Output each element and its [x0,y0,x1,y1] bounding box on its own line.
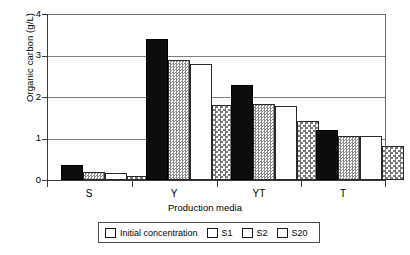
bar-S-initial-concentration [61,165,83,180]
y-tick-label-3: 3 [27,50,41,60]
chart-legend: Initial concentration S1 S2 S20 [98,222,320,243]
bar-Y-s2 [190,64,212,180]
y-tick-label-2: 2 [27,92,41,102]
legend-swatch-s2 [242,228,253,238]
bar-S-s2 [105,173,127,180]
bar-Y-s1 [168,60,190,180]
legend-swatch-initial-concentration [105,228,116,238]
bar-chart: Organic carbon (g/L) 4 3 2 1 0 [0,0,410,255]
x-tickmark-2 [217,181,218,187]
legend-item-s20: S20 [277,228,308,238]
legend-label-s1: S1 [222,228,233,238]
bar-Y-initial-concentration [146,39,168,180]
bar-T-s2 [360,136,382,180]
y-tick-label-4: 4 [27,9,41,19]
x-tickmark-4 [385,181,386,187]
legend-label-initial-concentration: Initial concentration [120,228,198,238]
legend-swatch-s20 [277,228,288,238]
bar-YT-initial-concentration [231,85,253,180]
bar-YT-s1 [253,104,275,180]
x-axis-title: Production media [0,202,410,213]
bar-T-s20 [382,146,404,180]
x-tickmark-3 [301,181,302,187]
bar-T-s1 [338,136,360,180]
x-tick-label-S: S [59,188,119,199]
x-tickmark-1 [132,181,133,187]
y-tick-label-1: 1 [27,133,41,143]
bar-S-s1 [83,172,105,180]
legend-item-initial-concentration: Initial concentration [105,228,198,238]
bar-T-initial-concentration [316,130,338,180]
legend-label-s2: S2 [257,228,268,238]
legend-label-s20: S20 [292,228,308,238]
x-tick-label-YT: YT [229,188,289,199]
legend-item-s1: S1 [207,228,233,238]
bars-layer [47,14,385,180]
x-tickmark-0 [47,181,48,187]
legend-item-s2: S2 [242,228,268,238]
y-axis-title: Organic carbon (g/L) [24,0,35,143]
x-tick-label-Y: Y [144,188,204,199]
bar-YT-s2 [275,106,297,180]
legend-swatch-s1 [207,228,218,238]
y-tick-label-0: 0 [27,175,41,185]
x-tick-label-T: T [313,188,373,199]
